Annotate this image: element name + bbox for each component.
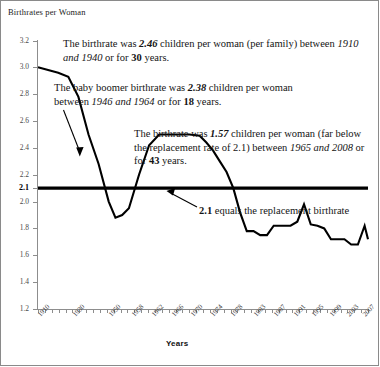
annot1-end: years. bbox=[142, 52, 169, 63]
annotation-1965-2008: The birthrate was 1.57 children per woma… bbox=[134, 127, 369, 168]
annotation-1910-1940: The birthrate was 2.46 children per woma… bbox=[63, 37, 363, 64]
annot3-pre: The birthrate was bbox=[134, 128, 210, 139]
annotation-baby-boomer: The baby boomer birthrate was 2.38 child… bbox=[54, 81, 304, 108]
annot3-value: 1.57 bbox=[210, 128, 228, 139]
annotation-replacement-rate: 2.1 equals the replacement birthrate bbox=[199, 204, 349, 218]
annot3-years: 1965 and 2008 bbox=[290, 142, 353, 153]
annot2-pre: The baby boomer birthrate was bbox=[54, 82, 188, 93]
annot2-mid2: or for bbox=[155, 96, 184, 107]
replacement-rate-arrow bbox=[167, 188, 198, 207]
annot3-end: years. bbox=[159, 155, 186, 166]
annot1-pre: The birthrate was bbox=[63, 38, 139, 49]
annot4-text: equals the replacement birthrate bbox=[212, 205, 349, 216]
annot1-duration: 30 bbox=[131, 52, 142, 63]
annot1-mid: children per woman (per family) between bbox=[157, 38, 337, 49]
annot3-duration: 43 bbox=[149, 155, 160, 166]
chart-frame: Birthrates per Woman 3.23.02.82.62.42.22… bbox=[0, 0, 379, 366]
annot4-value: 2.1 bbox=[199, 205, 212, 216]
annot2-end: years. bbox=[194, 96, 221, 107]
annot1-value: 2.46 bbox=[139, 38, 157, 49]
annot2-value: 2.38 bbox=[188, 82, 206, 93]
annot2-years: 1946 and 1964 bbox=[92, 96, 155, 107]
annot2-duration: 18 bbox=[183, 96, 194, 107]
baby-boomer-arrow bbox=[64, 110, 84, 157]
annot1-mid2: or for bbox=[102, 52, 131, 63]
